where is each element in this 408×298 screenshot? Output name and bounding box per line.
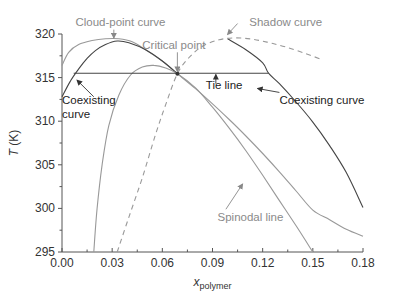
annotation-layer: Cloud-point curveCritical pointShadow cu… — [62, 16, 364, 223]
y-tick-label: 310 — [35, 114, 55, 128]
y-tick-label: 305 — [35, 158, 55, 172]
y-tick-label: 320 — [35, 27, 55, 41]
y-tick-label: 300 — [35, 201, 55, 215]
annotation-critical-point: Critical point — [142, 39, 206, 51]
x-axis-label: xpolymer — [192, 275, 231, 291]
critical-point-marker — [175, 72, 179, 76]
x-tick-label: 0.06 — [151, 256, 175, 270]
x-axis-label-subscript: polymer — [199, 281, 231, 291]
x-ticks: 0.000.030.060.090.120.150.18 — [50, 248, 375, 270]
annotation-shadow-curve: Shadow curve — [249, 16, 322, 28]
series-layer — [62, 38, 363, 252]
x-tick-label: 0.09 — [201, 256, 225, 270]
y-axis-label: T (K) — [7, 130, 21, 157]
annotation-spinodal-line: Spinodal line — [218, 211, 284, 223]
y-ticks: 295300305310315320 — [35, 27, 62, 259]
y-tick-label: 295 — [35, 245, 55, 259]
series-cloud-point-curve — [62, 38, 363, 236]
y-axis-label-unit: (K) — [7, 130, 21, 149]
x-tick-label: 0.15 — [301, 256, 325, 270]
x-tick-label: 0.12 — [251, 256, 275, 270]
annotation-coexisting: Coexisting — [62, 94, 116, 106]
phase-diagram-chart: 0.000.030.060.090.120.150.18 29530030531… — [0, 0, 408, 298]
annotation-arrow-coexisting-curve — [258, 89, 280, 93]
x-tick-label: 0.03 — [100, 256, 124, 270]
annotation-coexisting-curve: Coexisting curve — [279, 94, 364, 106]
axes: 0.000.030.060.090.120.150.18 29530030531… — [35, 27, 375, 270]
x-tick-label: 0.18 — [351, 256, 375, 270]
annotation-tie-line: Tie line — [206, 79, 243, 91]
y-tick-label: 315 — [35, 71, 55, 85]
annotation-curve: curve — [62, 108, 90, 120]
series-coexisting-curve-right-branch — [228, 39, 363, 208]
annotation-arrow-spinodal-line — [226, 184, 243, 209]
annotation-cloud-point-curve: Cloud-point curve — [75, 16, 165, 28]
annotation-arrow-shadow-curve — [228, 24, 238, 35]
